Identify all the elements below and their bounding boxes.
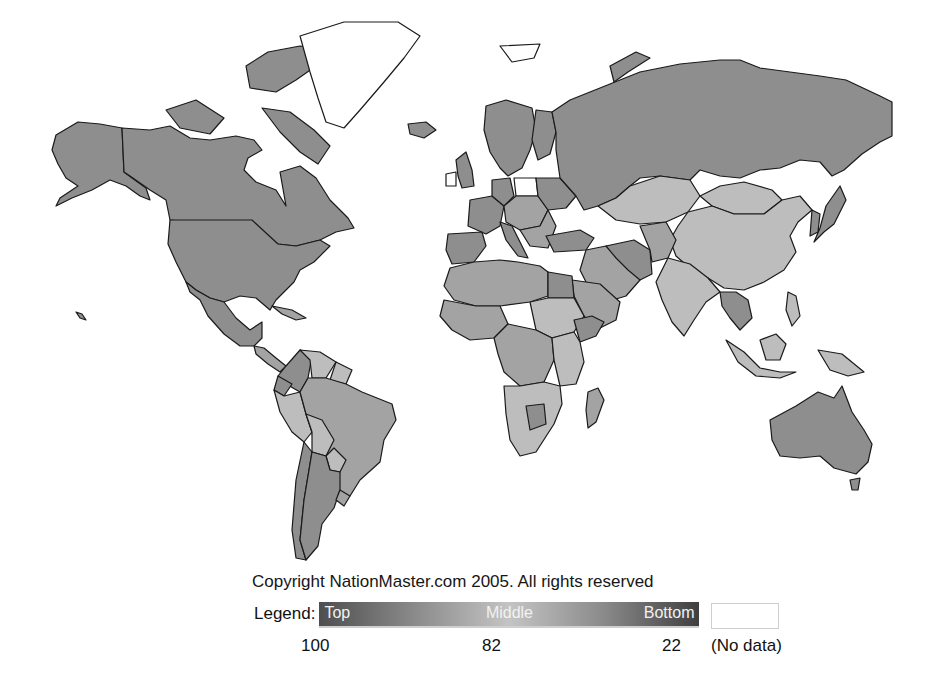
- region-north-africa[interactable]: [444, 260, 548, 306]
- region-hawaii[interactable]: [76, 312, 86, 320]
- legend-tick-bottom: 22: [662, 636, 681, 656]
- region-greenland[interactable]: [300, 22, 420, 128]
- legend-bottom-label: Bottom: [644, 604, 695, 622]
- legend-tick-top: 100: [301, 636, 329, 656]
- legend-top-label: Top: [324, 604, 350, 622]
- world-map: [0, 0, 927, 570]
- legend-middle-label: Middle: [486, 604, 533, 622]
- legend: Legend: Top Middle Bottom: [254, 601, 699, 627]
- region-uk[interactable]: [456, 152, 474, 188]
- region-cuba[interactable]: [272, 306, 306, 320]
- region-scandinavia[interactable]: [484, 100, 536, 176]
- legend-gradient-bar: Top Middle Bottom: [319, 602, 699, 626]
- region-ethiopia[interactable]: [574, 316, 604, 342]
- region-southeast-asia[interactable]: [720, 292, 752, 330]
- region-east-africa[interactable]: [552, 332, 584, 386]
- legend-no-data-swatch: [711, 603, 779, 629]
- region-central-america[interactable]: [254, 346, 286, 372]
- region-svalbard[interactable]: [500, 44, 540, 62]
- region-finland[interactable]: [532, 110, 556, 160]
- legend-label: Legend:: [254, 604, 315, 624]
- region-borneo[interactable]: [760, 334, 786, 360]
- copyright-notice: Copyright NationMaster.com 2005. All rig…: [252, 572, 654, 592]
- region-korea-japan[interactable]: [810, 186, 846, 242]
- region-poland[interactable]: [514, 178, 538, 196]
- region-baffin-island[interactable]: [262, 108, 330, 164]
- region-madagascar[interactable]: [586, 388, 604, 428]
- region-iceland[interactable]: [408, 122, 436, 138]
- legend-tick-middle: 82: [482, 636, 501, 656]
- region-philippines[interactable]: [786, 292, 800, 326]
- region-tasmania[interactable]: [850, 478, 860, 490]
- region-ireland[interactable]: [446, 172, 456, 186]
- legend-no-data-label: (No data): [711, 636, 782, 656]
- region-new-guinea[interactable]: [818, 350, 864, 376]
- region-iberia[interactable]: [446, 232, 486, 264]
- region-australia[interactable]: [770, 386, 872, 474]
- region-egypt[interactable]: [548, 272, 574, 298]
